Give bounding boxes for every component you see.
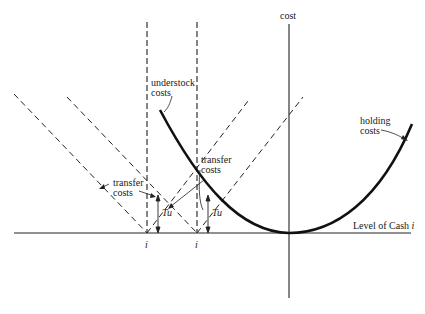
i-marker-right: i	[195, 240, 198, 250]
tu-label-right: Tu	[212, 208, 222, 218]
y-axis-label: cost	[280, 11, 296, 21]
tu-arrow-right	[206, 195, 210, 233]
holding-costs-label: holding costs	[360, 116, 391, 136]
transfer-left-arrowhead	[99, 184, 105, 189]
i-marker-left: i	[145, 240, 148, 250]
holding-label-line2: costs	[360, 126, 391, 136]
transfer-line-desc-left	[14, 94, 147, 233]
tu-arrow-left	[156, 195, 160, 233]
transfer-costs-right-label: transfer costs	[201, 155, 232, 175]
understock-costs-label: understock costs	[151, 78, 195, 98]
understock-leader-arrow	[164, 96, 172, 112]
understock-label-line2: costs	[151, 88, 195, 98]
transfer-left-arrowhead-2	[150, 193, 156, 198]
x-axis-label-var: i	[412, 220, 415, 231]
tu-label-left: Tu	[162, 208, 172, 218]
transfer-left-label-line2: costs	[113, 188, 144, 198]
x-axis-label: Level of Cash i	[353, 221, 414, 231]
transfer-costs-left-label: transfer costs	[113, 178, 144, 198]
transfer-right-label-line2: costs	[201, 165, 232, 175]
transfer-line-desc-right	[67, 97, 197, 233]
x-axis-label-text: Level of Cash	[353, 220, 409, 231]
